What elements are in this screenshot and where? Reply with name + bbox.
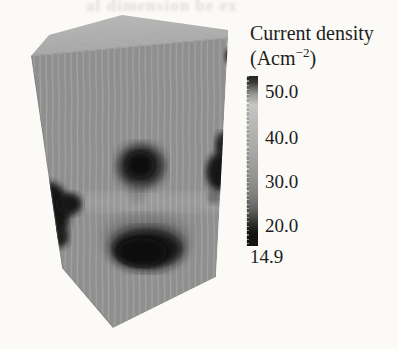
hotspot-left-edge-protrusion bbox=[58, 193, 82, 215]
colorbar-tick-label-20: 20.0 bbox=[265, 215, 298, 237]
hotspot-right-edge-lower bbox=[206, 153, 234, 191]
current-density-figure: al dimension be ex bbox=[0, 0, 398, 349]
hotspot-left-edge-lower bbox=[43, 226, 69, 248]
colorbar-tick-label-40: 40.0 bbox=[265, 127, 298, 149]
colorbar-tick-texture bbox=[246, 76, 249, 246]
colorbar-tick-label-50: 50.0 bbox=[265, 81, 298, 103]
colorbar bbox=[247, 76, 258, 246]
unit-exponent: −2 bbox=[296, 45, 310, 60]
colorbar-min-label: 14.9 bbox=[250, 246, 283, 268]
legend-title: Current density bbox=[250, 22, 374, 45]
hotspot-right-edge-tail bbox=[208, 190, 220, 204]
simulation-block-graphic bbox=[0, 0, 398, 349]
hotspot-upper-center-core bbox=[126, 152, 154, 178]
hotspot-lower-center-core bbox=[117, 238, 167, 266]
hotspot-top-right-notch bbox=[225, 48, 237, 64]
legend-units: (Acm−2) bbox=[250, 45, 316, 70]
hotspot-upper-center-tail bbox=[128, 181, 146, 203]
unit-suffix: ) bbox=[309, 47, 316, 69]
unit-prefix: (Acm bbox=[250, 47, 296, 69]
colorbar-tick-label-30: 30.0 bbox=[265, 171, 298, 193]
